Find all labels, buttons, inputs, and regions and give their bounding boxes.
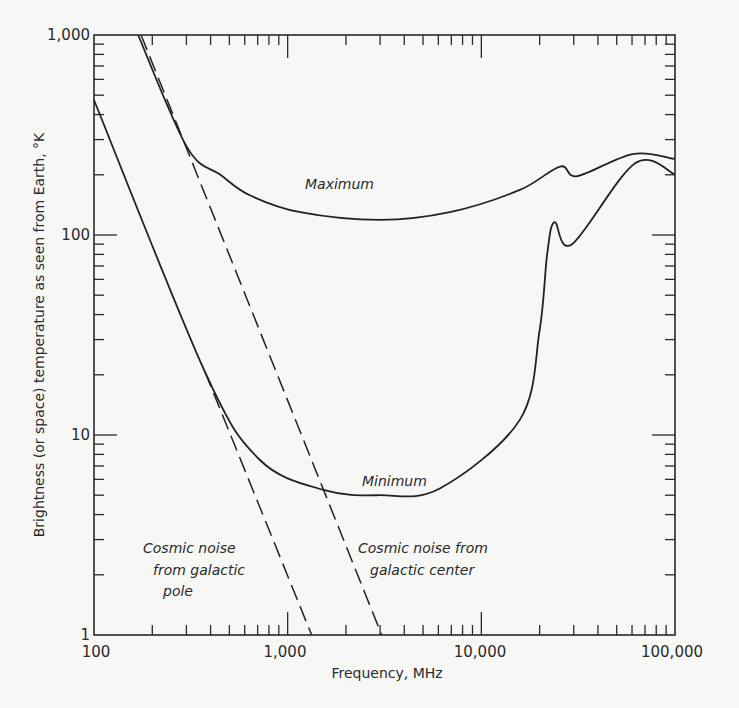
curve-maximum bbox=[138, 35, 675, 220]
x-tick-label-100: 100 bbox=[82, 643, 111, 661]
center-label-line2: galactic center bbox=[370, 562, 475, 578]
y-tick-label-10: 10 bbox=[71, 426, 90, 444]
pole-label-line3: pole bbox=[162, 583, 193, 599]
x-tick-label-100000: 100,000 bbox=[641, 643, 703, 661]
pole-label-line2: from galactic bbox=[153, 562, 245, 578]
y-tick-label-100: 100 bbox=[61, 226, 90, 244]
pole-label-line1: Cosmic noise bbox=[143, 540, 236, 556]
x-tick-label-1000: 1,000 bbox=[264, 643, 307, 661]
curve-cosmic-noise-from-galactic-pole bbox=[205, 372, 312, 635]
x-tick-label-10000: 10,000 bbox=[454, 643, 507, 661]
maximum-label: Maximum bbox=[305, 176, 374, 192]
y-tick-label-1: 1 bbox=[80, 626, 90, 644]
y-axis-title: Brightness (or space) temperature as see… bbox=[31, 132, 47, 537]
curve-minimum bbox=[94, 100, 675, 496]
minimum-label: Minimum bbox=[362, 473, 427, 489]
chart: 1,000 100 10 1 100 1,000 10,000 100,000 … bbox=[0, 0, 739, 708]
x-axis-title: Frequency, MHz bbox=[331, 665, 442, 681]
y-tick-label-1000: 1,000 bbox=[47, 26, 90, 44]
center-label-line1: Cosmic noise from bbox=[358, 540, 488, 556]
